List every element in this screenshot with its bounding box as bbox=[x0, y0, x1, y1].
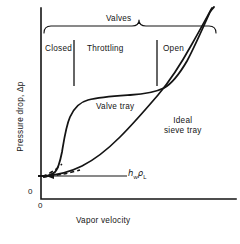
region-label-closed: Closed bbox=[45, 44, 72, 53]
rho-subscript: L bbox=[143, 174, 146, 180]
hw-rho-l-annotation: hwρL bbox=[128, 169, 147, 180]
ideal-sieve-tray-curve-label: Ideal sieve tray bbox=[164, 116, 202, 136]
ideal-sieve-line-2: sieve tray bbox=[164, 126, 202, 135]
chart-plot-area bbox=[0, 0, 240, 244]
region-label-open: Open bbox=[163, 44, 184, 53]
x-axis-label: Vapor velocity bbox=[76, 216, 130, 225]
y-axis-origin-label: 0 bbox=[28, 188, 33, 197]
hw-arrow-head-icon bbox=[46, 173, 54, 179]
ideal-sieve-line-1: Ideal bbox=[173, 116, 192, 125]
ideal-sieve-tray-curve bbox=[44, 8, 212, 176]
region-label-throttling: Throttling bbox=[87, 44, 124, 53]
valve-tray-curve bbox=[44, 7, 214, 177]
y-axis-label: Pressure drop, Δp bbox=[16, 52, 25, 182]
x-axis-origin-label: 0 bbox=[38, 202, 43, 211]
chart-figure: Pressure drop, Δp Vapor velocity 0 0 Val… bbox=[0, 0, 240, 244]
valve-tray-curve-label: Valve tray bbox=[96, 102, 134, 111]
valves-group-label: Valves bbox=[106, 14, 131, 23]
